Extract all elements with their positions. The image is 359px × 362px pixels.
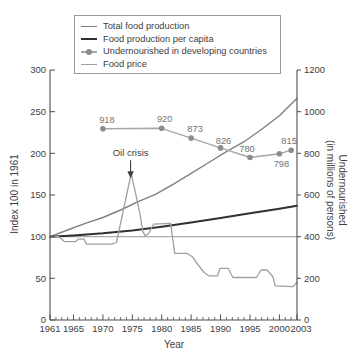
data-point-label: 780: [239, 144, 255, 154]
data-point-label: 826: [216, 136, 232, 146]
chart-figure: 9189208738267807988150501001502002503000…: [0, 0, 359, 362]
left-axis-tick-label: 150: [30, 189, 46, 200]
x-axis-tick-label: 1961: [39, 323, 60, 334]
legend-marker-dot: [86, 49, 92, 55]
right-axis-tick-label: 200: [304, 273, 320, 284]
chart-legend: Total food production Food production pe…: [74, 15, 281, 74]
right-axis-tick-label: 600: [304, 189, 320, 200]
legend-item-food-price: Food price: [81, 58, 280, 71]
left-axis-tick-label: 200: [30, 148, 46, 159]
x-axis-tick-label: 1970: [92, 323, 113, 334]
legend-label: Food price: [103, 60, 147, 69]
x-axis-title: Year: [164, 339, 184, 350]
data-point-label: 918: [99, 115, 115, 125]
right-axis-title-line2: (in millions of persons): [324, 140, 336, 240]
data-point: [288, 147, 294, 153]
legend-line-swatch: [81, 38, 97, 40]
series-total-food-production: [50, 98, 297, 236]
annotation-arrowhead-icon: [127, 171, 133, 178]
series-food-production-per-capita: [50, 206, 297, 237]
x-axis-tick-label: 1985: [181, 323, 202, 334]
right-axis-tick-label: 400: [304, 231, 320, 242]
legend-line-dot-swatch: [81, 51, 97, 52]
data-point-label: 798: [274, 159, 290, 169]
data-point-label: 873: [187, 124, 203, 134]
left-axis-tick-label: 100: [30, 231, 46, 242]
data-point: [100, 126, 106, 132]
left-axis-tick-label: 300: [30, 64, 46, 75]
x-axis-tick-label: 1965: [63, 323, 84, 334]
data-point-label: 815: [281, 136, 297, 146]
right-axis-tick-label: 800: [304, 148, 320, 159]
right-axis-tick-label: 1000: [304, 106, 325, 117]
x-axis-tick-label: 2003: [290, 323, 311, 334]
legend-label: Undernourished in developing countries: [103, 47, 267, 56]
data-point: [188, 135, 194, 141]
right-axis-title-line1: Undernourished: [336, 140, 348, 240]
legend-item-food-production-per-capita: Food production per capita: [81, 33, 280, 46]
annotation-label: Oil crisis: [113, 147, 149, 158]
x-axis-tick-label: 1995: [239, 323, 260, 334]
x-axis-tick-label: 1980: [151, 323, 172, 334]
legend-label: Food production per capita: [103, 35, 214, 44]
data-point: [277, 151, 283, 157]
legend-line-swatch: [81, 64, 97, 65]
legend-label: Total food production: [103, 22, 189, 31]
data-point: [247, 155, 253, 161]
data-point: [218, 145, 224, 151]
data-point: [159, 126, 165, 132]
legend-line-swatch: [81, 26, 97, 27]
legend-item-undernourished: Undernourished in developing countries: [81, 46, 280, 59]
right-axis-tick-label: 1200: [304, 64, 325, 75]
legend-item-total-food-production: Total food production: [81, 20, 280, 33]
right-axis-title: Undernourished (in millions of persons): [324, 140, 348, 240]
x-axis-tick-label: 1975: [122, 323, 143, 334]
x-axis-tick-label: 2000: [269, 323, 290, 334]
series-food-price: [50, 173, 297, 286]
data-point-label: 920: [157, 114, 173, 124]
left-axis-tick-label: 50: [35, 273, 46, 284]
x-axis-tick-label: 1990: [210, 323, 231, 334]
left-axis-title: Index 100 in 1961: [9, 154, 20, 234]
left-axis-tick-label: 250: [30, 106, 46, 117]
